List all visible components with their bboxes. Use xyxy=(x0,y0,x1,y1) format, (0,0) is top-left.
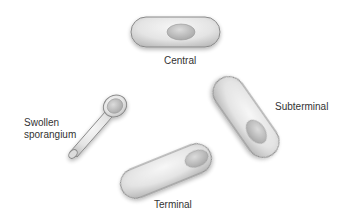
endospore-diagram: Central Swollen sporangium Subterminal T… xyxy=(0,0,350,217)
subterminal-cell xyxy=(207,70,286,164)
label-subterminal: Subterminal xyxy=(275,101,328,113)
terminal-cell xyxy=(116,139,216,203)
label-swollen-line1: Swollen xyxy=(24,117,59,129)
label-swollen-line2: sporangium xyxy=(24,129,76,141)
central-spore xyxy=(167,24,195,40)
label-central: Central xyxy=(164,55,196,67)
central-cell xyxy=(131,17,220,47)
label-terminal: Terminal xyxy=(154,199,192,211)
swollen-sporangium-cell xyxy=(67,91,131,160)
